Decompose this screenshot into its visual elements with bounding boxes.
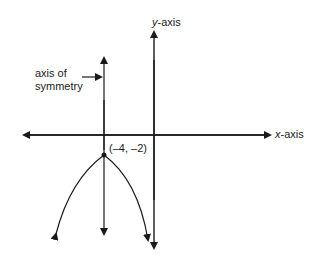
axis-of-symmetry-label: axis of symmetry [35,67,83,93]
axis-of-symmetry-label-line1: axis of [35,67,83,80]
vertex-point [102,153,107,158]
axis-of-symmetry-label-line2: symmetry [35,80,83,93]
vertex-label: (–4, –2) [109,142,147,155]
graph-canvas [0,0,321,275]
y-axis-label: y-axis [152,16,181,29]
x-axis-label: x-axis [275,128,304,141]
parabola-curve [56,155,104,234]
